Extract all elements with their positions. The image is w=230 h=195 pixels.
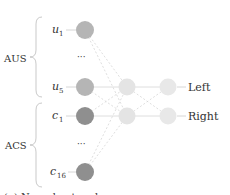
svg-text:1: 1 — [59, 116, 63, 124]
hidden-node-1 — [119, 79, 136, 96]
aus-brace — [30, 17, 42, 97]
input-node-u1 — [76, 21, 94, 39]
group-label-acs: ACS — [4, 140, 27, 151]
svg-text:16: 16 — [57, 172, 66, 180]
output-connectors — [177, 87, 186, 116]
hidden-node-2 — [119, 108, 136, 125]
svg-text:1: 1 — [59, 30, 63, 38]
input-label-c16: c 16 — [50, 165, 66, 180]
input-node-u5 — [76, 78, 94, 96]
output-node-left — [160, 79, 177, 96]
input-node-c1 — [76, 107, 94, 125]
network-diagram: AUS ACS u 1 u 5 c 1 c 16 — [0, 0, 230, 195]
input-label-c1: c 1 — [52, 109, 63, 124]
svg-text:c: c — [52, 109, 58, 122]
input-label-u1: u 1 — [52, 23, 63, 38]
svg-text:5: 5 — [59, 87, 63, 95]
input-connectors — [66, 30, 76, 172]
svg-text:c: c — [50, 165, 56, 178]
edges-input-hidden — [85, 30, 127, 172]
ellipsis-aus: ··· — [77, 52, 86, 62]
input-label-u5: u 5 — [52, 80, 63, 95]
ellipsis-acs: ··· — [77, 139, 86, 149]
output-label-right: Right — [188, 110, 219, 123]
caption: (a) Neural network ... — [4, 191, 114, 195]
output-label-left: Left — [188, 81, 211, 94]
acs-brace — [30, 103, 42, 187]
input-node-c16 — [76, 163, 94, 181]
group-label-aus: AUS — [3, 53, 27, 64]
output-node-right — [160, 108, 177, 125]
